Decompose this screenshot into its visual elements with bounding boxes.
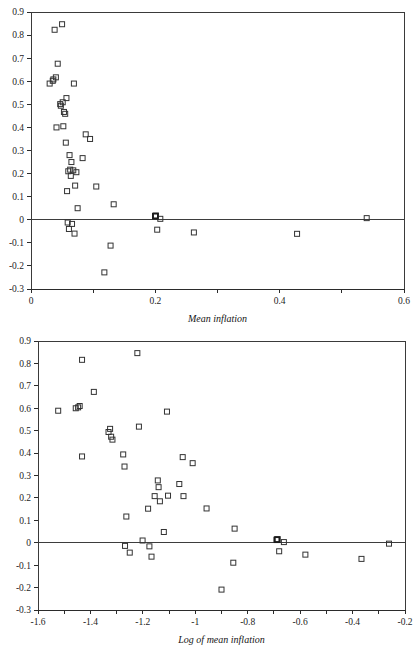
data-point-marker bbox=[55, 61, 60, 66]
data-point-marker bbox=[121, 452, 126, 457]
data-point-marker bbox=[181, 494, 186, 499]
data-point-marker bbox=[177, 482, 182, 487]
x-axis-title: Mean inflation bbox=[187, 313, 247, 324]
chart-mean-inflation-figure: -0.3-0.2-0.100.10.20.30.40.50.60.70.80.9… bbox=[0, 0, 420, 330]
y-axis-tick-label: 0.7 bbox=[19, 381, 31, 391]
data-point-marker bbox=[61, 124, 66, 129]
data-point-marker bbox=[122, 464, 127, 469]
data-point-marker bbox=[149, 554, 154, 559]
data-point-marker bbox=[54, 125, 59, 130]
x-axis-tick-label: -0.2 bbox=[397, 617, 412, 627]
chart-log-mean-inflation-figure: -0.3-0.2-0.100.10.20.30.40.50.60.70.80.9… bbox=[0, 330, 420, 651]
data-point-marker bbox=[156, 485, 161, 490]
data-point-marker bbox=[204, 506, 209, 511]
data-point-marker bbox=[231, 560, 236, 565]
x-axis-tick-label: 0.4 bbox=[274, 296, 286, 306]
plot-frame bbox=[31, 12, 404, 289]
data-point-marker bbox=[295, 231, 300, 236]
data-point-marker bbox=[80, 454, 85, 459]
data-point-marker bbox=[136, 424, 141, 429]
data-point-marker bbox=[63, 140, 68, 145]
data-point-marker bbox=[80, 357, 85, 362]
y-axis-tick-label: 0.8 bbox=[19, 359, 31, 369]
plot-frame bbox=[38, 341, 405, 610]
x-axis-tick-label: -0.4 bbox=[345, 617, 360, 627]
data-point-marker bbox=[387, 541, 392, 546]
data-point-marker bbox=[157, 499, 162, 504]
page-top-artifact bbox=[52, 0, 55, 6]
y-axis-tick-label: 0.4 bbox=[12, 123, 24, 133]
y-axis-tick-label: -0.2 bbox=[9, 261, 24, 271]
data-point-marker bbox=[164, 409, 169, 414]
data-point-marker bbox=[146, 506, 151, 511]
data-point-marker bbox=[60, 22, 65, 27]
data-point-marker bbox=[166, 493, 171, 498]
y-axis-tick-label: 0 bbox=[26, 538, 31, 548]
data-point-marker bbox=[127, 550, 132, 555]
data-point-marker bbox=[191, 230, 196, 235]
x-axis-tick-label: -0.8 bbox=[240, 617, 255, 627]
x-axis-tick-label: -1.2 bbox=[135, 617, 150, 627]
x-axis-tick-label: 0.6 bbox=[398, 296, 410, 306]
data-point-marker bbox=[74, 170, 79, 175]
data-point-marker bbox=[108, 243, 113, 248]
y-axis-tick-label: 0.8 bbox=[12, 30, 24, 40]
data-point-marker bbox=[108, 426, 113, 431]
y-axis-tick-label: 0 bbox=[19, 215, 24, 225]
data-point-marker bbox=[75, 206, 80, 211]
data-point-marker bbox=[161, 529, 166, 534]
y-axis-tick-label: -0.1 bbox=[9, 238, 24, 248]
data-point-marker bbox=[94, 184, 99, 189]
x-axis-tick-label: -1.6 bbox=[30, 617, 45, 627]
y-axis-tick-label: -0.3 bbox=[9, 284, 24, 294]
data-point-marker bbox=[147, 544, 152, 549]
scatter-plot-log-mean-inflation: -0.3-0.2-0.100.10.20.30.40.50.60.70.80.9… bbox=[0, 330, 420, 651]
y-axis-tick-label: 0.5 bbox=[12, 100, 24, 110]
data-point-marker bbox=[56, 408, 61, 413]
data-point-marker bbox=[73, 183, 78, 188]
data-point-marker bbox=[66, 226, 71, 231]
data-point-marker bbox=[69, 160, 74, 165]
x-axis-tick-label: 0 bbox=[29, 296, 34, 306]
y-axis-tick-label: 0.1 bbox=[19, 516, 31, 526]
data-point-marker-overlap bbox=[275, 537, 280, 542]
data-point-marker bbox=[303, 552, 308, 557]
x-axis-title: Log of mean inflation bbox=[177, 634, 264, 645]
data-point-marker bbox=[72, 231, 77, 236]
data-point-marker bbox=[80, 156, 85, 161]
data-point-marker bbox=[123, 543, 128, 548]
x-axis-tick-label: 0.2 bbox=[149, 296, 161, 306]
data-point-marker bbox=[155, 478, 160, 483]
y-axis-tick-label: -0.1 bbox=[16, 561, 31, 571]
data-point-marker bbox=[124, 514, 129, 519]
data-point-marker bbox=[71, 81, 76, 86]
data-point-marker bbox=[155, 227, 160, 232]
y-axis-tick-label: 0.3 bbox=[19, 471, 31, 481]
y-axis-tick-label: 0.4 bbox=[19, 448, 31, 458]
data-point-marker bbox=[135, 351, 140, 356]
x-axis-tick-label: -0.6 bbox=[293, 617, 308, 627]
data-point-marker bbox=[65, 189, 70, 194]
y-axis-tick-label: 0.7 bbox=[12, 54, 24, 64]
x-axis-tick-label: -1.4 bbox=[83, 617, 98, 627]
y-axis-tick-label: 0.2 bbox=[12, 169, 24, 179]
data-point-marker bbox=[102, 270, 107, 275]
data-point-marker bbox=[180, 455, 185, 460]
data-point-marker bbox=[219, 587, 224, 592]
data-point-marker bbox=[277, 549, 282, 554]
y-axis-tick-label: 0.5 bbox=[19, 426, 31, 436]
y-axis-tick-label: 0.3 bbox=[12, 146, 24, 156]
data-point-marker bbox=[359, 556, 364, 561]
y-axis-tick-label: 0.6 bbox=[19, 404, 31, 414]
data-point-marker bbox=[152, 494, 157, 499]
y-axis-tick-label: 0.9 bbox=[12, 7, 24, 17]
scatter-plot-mean-inflation: -0.3-0.2-0.100.10.20.30.40.50.60.70.80.9… bbox=[0, 0, 420, 330]
y-axis-tick-label: 0.1 bbox=[12, 192, 24, 202]
data-point-marker bbox=[52, 27, 57, 32]
x-axis-tick-label: -1 bbox=[191, 617, 199, 627]
y-axis-tick-label: -0.2 bbox=[16, 583, 31, 593]
data-point-marker bbox=[190, 461, 195, 466]
data-point-marker bbox=[232, 526, 237, 531]
data-point-marker bbox=[281, 540, 286, 545]
y-axis-tick-label: 0.9 bbox=[19, 336, 31, 346]
